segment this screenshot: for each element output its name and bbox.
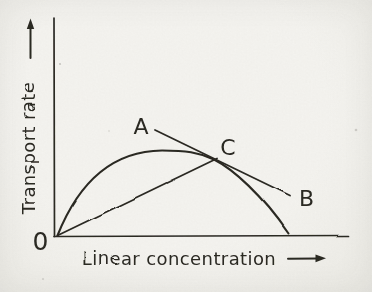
point-label-a: A xyxy=(133,114,148,139)
x-axis-title: Linear concentration xyxy=(82,248,276,269)
origin-label: 0 xyxy=(33,227,49,256)
y-axis-title: Transport rate xyxy=(18,82,39,215)
scanned-figure-page: Transport rate Linear concentration 0 A … xyxy=(0,0,372,292)
x-axis-line xyxy=(54,236,349,237)
transport-rate-vs-concentration-chart: Transport rate Linear concentration 0 A … xyxy=(0,0,372,292)
paper-speck xyxy=(59,63,61,65)
paper-speck xyxy=(42,278,44,280)
point-label-c: C xyxy=(220,135,235,160)
point-label-b: B xyxy=(299,186,314,211)
paper-speck xyxy=(108,130,110,132)
y-axis-line xyxy=(54,18,55,237)
paper-speck xyxy=(355,129,358,132)
